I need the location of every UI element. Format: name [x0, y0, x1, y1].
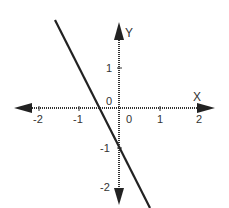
x-tick-label: -2: [33, 114, 43, 125]
y-axis-top-arrow-icon: [114, 22, 124, 40]
y-tick-label: -1: [100, 143, 110, 154]
x-tick-label: 2: [196, 114, 202, 125]
y-axis-bottom-arrow-icon: [114, 188, 124, 205]
x-tick-label: -1: [73, 114, 83, 125]
chart-canvas: [0, 0, 229, 208]
y-tick-label: 1: [106, 63, 112, 74]
x-tick-label: 1: [157, 114, 163, 125]
x-tick-label: 0: [126, 114, 132, 125]
x-axis-label: X: [193, 91, 201, 103]
y-axis-label: Y: [125, 27, 133, 39]
x-axis-right-arrow-icon: [197, 103, 215, 113]
y-tick-label: -2: [100, 182, 110, 193]
line-y-equals-minus-2x-minus-1: [55, 20, 150, 208]
y-tick-label: 0: [106, 96, 112, 107]
x-axis-left-arrow-icon: [14, 103, 32, 113]
